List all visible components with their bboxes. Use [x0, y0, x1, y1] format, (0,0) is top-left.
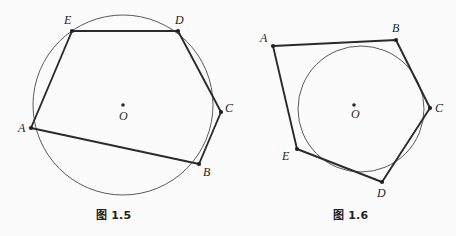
vertex-label-c: C: [435, 102, 443, 114]
circle-center-label: O: [119, 110, 128, 122]
inscribed-circle: [298, 46, 424, 172]
vertex-label-c: C: [225, 102, 233, 114]
vertex-point-d: [380, 180, 384, 184]
vertex-label-b: B: [392, 22, 399, 34]
vertex-label-a: A: [18, 122, 25, 134]
vertex-point-d: [176, 29, 180, 33]
vertex-label-d: D: [377, 187, 386, 199]
vertex-label-e: E: [282, 150, 289, 162]
circle-center-label: O: [351, 108, 360, 120]
vertex-point-c: [428, 106, 432, 110]
figure-1-5-group: [29, 15, 223, 195]
vertex-label-a: A: [260, 32, 267, 44]
vertex-label-b: B: [203, 166, 210, 178]
circle-center-dot: [121, 103, 125, 107]
cyclic-pentagon: [31, 31, 221, 164]
figure-caption-1-5: 图 1.5: [96, 206, 131, 222]
vertex-point-e: [70, 29, 74, 33]
vertex-point-a: [29, 126, 33, 130]
vertex-label-d: D: [175, 14, 184, 26]
geometry-figures-canvas: [0, 0, 456, 236]
figure-caption-1-6: 图 1.6: [333, 206, 368, 222]
vertex-point-e: [295, 147, 299, 151]
vertex-point-b: [394, 38, 398, 42]
vertex-point-a: [271, 44, 275, 48]
vertex-point-b: [197, 162, 201, 166]
figure-board: A B C D E O A B C D E O 图 1.5 图 1.6: [0, 0, 456, 236]
vertex-label-e: E: [64, 14, 71, 26]
vertex-point-c: [219, 110, 223, 114]
